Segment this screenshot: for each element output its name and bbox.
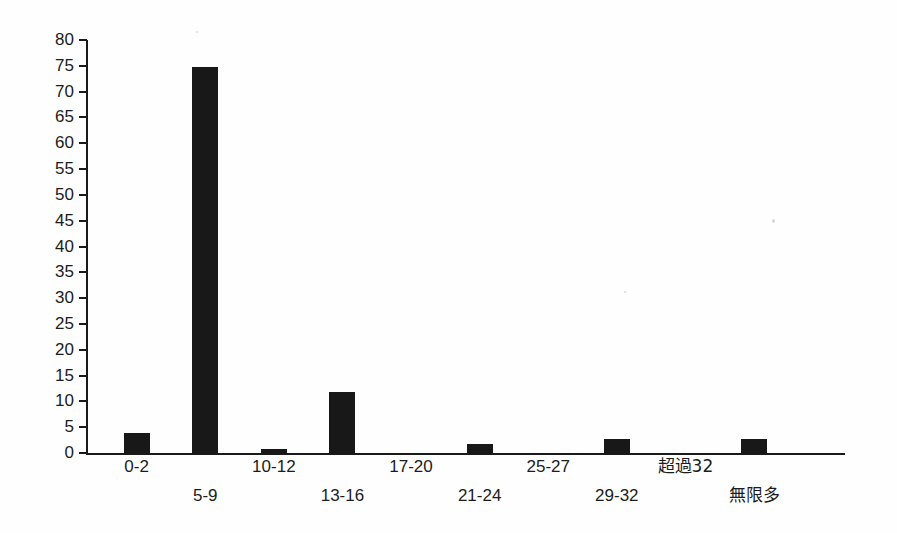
y-tick-mark [79,400,87,402]
y-tick-label: 80 [28,31,74,48]
y-tick-label: 20 [28,341,74,358]
bar [124,433,150,454]
y-tick-label-text: 10 [40,392,74,409]
y-tick-label-text: 80 [40,31,74,48]
bar [741,439,767,454]
x-tick-label: 無限多 [694,487,814,504]
y-tick-label: 55 [28,160,74,177]
y-tick-label-text: 55 [40,160,74,177]
bar-chart-figure: 05101520253035404550556065707580 0-25-91… [0,0,897,533]
y-tick-label: 75 [28,57,74,74]
bars-layer [87,40,845,454]
x-tick-label: 5-9 [145,487,265,504]
y-tick-label: 15 [28,367,74,384]
y-tick-mark [79,297,87,299]
y-tick-label-text: 60 [40,134,74,151]
x-tick-label: 10-12 [214,458,334,475]
y-tick-label-text: 30 [40,289,74,306]
x-tick-label: 17-20 [351,458,471,475]
x-tick-label: 13-16 [282,487,402,504]
y-tick-label: 45 [28,212,74,229]
y-tick-label: 10 [28,392,74,409]
y-tick-label: 60 [28,134,74,151]
x-tick-label: 超過32 [625,458,745,475]
y-tick-label-text: 40 [40,238,74,255]
y-tick-mark [79,271,87,273]
y-tick-mark [79,168,87,170]
bar [192,67,218,454]
y-tick-label-text: 0 [40,444,74,461]
y-tick-mark [79,91,87,93]
y-tick-mark [79,65,87,67]
y-tick-label: 65 [28,108,74,125]
y-tick-label-text: 50 [40,186,74,203]
y-tick-label-text: 25 [40,315,74,332]
y-tick-label-text: 70 [40,83,74,100]
y-tick-label: 40 [28,238,74,255]
y-tick-label-text: 65 [40,108,74,125]
y-tick-label-text: 75 [40,57,74,74]
x-tick-label: 21-24 [420,487,540,504]
bar [604,439,630,454]
y-tick-label: 25 [28,315,74,332]
y-tick-mark [79,349,87,351]
x-tick-label: 0-2 [77,458,197,475]
y-tick-mark [79,39,87,41]
bar [329,392,355,454]
y-tick-mark [79,452,87,454]
y-tick-label-text: 15 [40,367,74,384]
y-tick-label-text: 5 [40,418,74,435]
y-tick-label: 0 [28,444,74,461]
y-tick-label-text: 20 [40,341,74,358]
scan-speck [196,31,198,33]
y-tick-label: 30 [28,289,74,306]
y-tick-label-text: 35 [40,263,74,280]
y-tick-mark [79,375,87,377]
y-tick-mark [79,246,87,248]
y-tick-label-text: 45 [40,212,74,229]
y-tick-label: 50 [28,186,74,203]
y-tick-mark [79,323,87,325]
bar [467,444,493,454]
y-tick-mark [79,426,87,428]
y-tick-label: 5 [28,418,74,435]
y-tick-label: 70 [28,83,74,100]
y-tick-mark [79,142,87,144]
y-tick-mark [79,116,87,118]
y-tick-label: 35 [28,263,74,280]
x-tick-label: 25-27 [488,458,608,475]
y-tick-mark [79,220,87,222]
bar [261,449,287,454]
x-tick-label: 29-32 [557,487,677,504]
y-tick-mark [79,194,87,196]
